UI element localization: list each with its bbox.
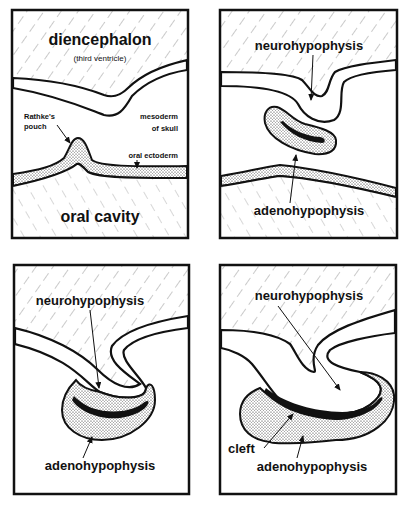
label-neurohypophysis: neurohypophysis	[36, 293, 144, 308]
label-neurohypophysis: neurohypophysis	[255, 38, 363, 53]
label-adenohypophysis: adenohypophysis	[254, 203, 365, 218]
pituitary-development-figure: diencephalon (third ventricle) Rathke's …	[0, 0, 408, 510]
label-oral-ectoderm: oral ectoderm	[128, 151, 178, 160]
label-adenohypophysis: adenohypophysis	[45, 458, 156, 473]
label-cleft: cleft	[228, 441, 255, 456]
label-mesoderm-line2: of skull	[152, 124, 178, 133]
arrow-rathkes-pouch	[57, 125, 70, 143]
label-adenohypophysis: adenohypophysis	[257, 459, 368, 474]
label-rathkes-pouch-line1: Rathke's	[24, 112, 55, 121]
arrow-adenohypophysis	[83, 437, 92, 458]
label-third-ventricle: (third ventricle)	[74, 54, 127, 63]
label-mesoderm-line1: mesoderm	[140, 112, 178, 121]
label-rathkes-pouch-line2: pouch	[24, 122, 47, 131]
label-neurohypophysis: neurohypophysis	[255, 288, 363, 303]
label-diencephalon: diencephalon	[48, 31, 151, 48]
label-oral-cavity: oral cavity	[60, 208, 139, 225]
